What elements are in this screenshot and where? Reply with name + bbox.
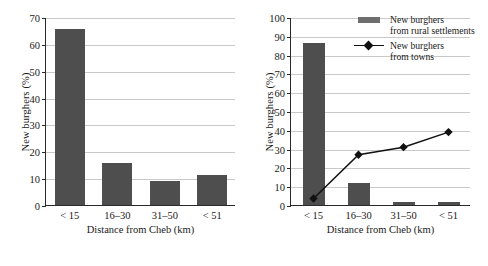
line-path bbox=[314, 132, 449, 198]
figure: New burghers (%) 010203040506070 < 1516–… bbox=[0, 0, 488, 266]
y-axis-tick-label: 10 bbox=[275, 182, 286, 193]
chart-panel-left: New burghers (%) 010203040506070 < 1516–… bbox=[0, 0, 244, 266]
y-axis-tick-label: 40 bbox=[275, 125, 286, 136]
x-axis-tick-label: < 51 bbox=[203, 210, 222, 221]
legend-item-rural: New burghers from rural settlements bbox=[354, 14, 475, 36]
y-axis-tick bbox=[42, 125, 46, 126]
legend-label-towns: New burghers from towns bbox=[390, 40, 444, 62]
y-axis-tick bbox=[42, 99, 46, 100]
y-axis-tick-label: 60 bbox=[30, 39, 41, 50]
y-axis-tick bbox=[42, 18, 46, 19]
plot-area-left: 010203040506070 < 1516–3031–50< 51 Dista… bbox=[45, 18, 235, 206]
bar bbox=[197, 175, 227, 205]
y-axis-tick-label: 20 bbox=[30, 147, 41, 158]
x-axis-tick-label: 16–30 bbox=[345, 210, 371, 221]
y-axis-tick-label: 60 bbox=[275, 88, 286, 99]
y-axis-tick-label: 20 bbox=[275, 163, 286, 174]
y-axis-tick bbox=[42, 152, 46, 153]
x-axis-tick-label: 31–50 bbox=[152, 210, 178, 221]
legend-item-towns: New burghers from towns bbox=[354, 40, 475, 62]
x-axis-tick-label: < 15 bbox=[60, 210, 79, 221]
y-axis-tick-label: 0 bbox=[35, 201, 40, 212]
y-axis-tick-label: 70 bbox=[275, 69, 286, 80]
y-axis-tick bbox=[42, 206, 46, 207]
legend-line-diamond-icon bbox=[354, 40, 384, 51]
y-axis-tick-label: 30 bbox=[275, 144, 286, 155]
y-axis-tick-label: 50 bbox=[275, 107, 286, 118]
y-axis-tick-label: 100 bbox=[269, 13, 285, 24]
y-axis-tick-label: 40 bbox=[30, 93, 41, 104]
bar bbox=[102, 163, 132, 205]
y-axis-tick-label: 90 bbox=[275, 31, 286, 42]
y-axis-title-left: New burghers (%) bbox=[20, 73, 31, 152]
legend-label-rural-line1: New burghers bbox=[390, 14, 475, 25]
y-axis-tick-label: 70 bbox=[30, 13, 41, 24]
legend-label-rural-line2: from rural settlements bbox=[390, 25, 475, 36]
legend-bar-swatch-icon bbox=[354, 14, 384, 25]
y-axis-tick-label: 30 bbox=[30, 120, 41, 131]
chart-panel-right: New burghers (%) 0102030405060708090100 … bbox=[244, 0, 488, 266]
y-axis-tick bbox=[42, 72, 46, 73]
y-axis-tick-label: 80 bbox=[275, 50, 286, 61]
bar bbox=[150, 181, 180, 205]
gridline bbox=[46, 18, 235, 19]
x-axis-tick-label: < 15 bbox=[304, 210, 323, 221]
legend: New burghers from rural settlements New … bbox=[354, 14, 475, 66]
y-axis-tick bbox=[42, 45, 46, 46]
data-point-marker-diamond bbox=[444, 128, 452, 136]
data-point-marker-diamond bbox=[399, 143, 407, 151]
x-axis-tick-label: 16–30 bbox=[104, 210, 130, 221]
x-axis-title-left: Distance from Cheb (km) bbox=[46, 224, 235, 235]
legend-label-towns-line2: from towns bbox=[390, 51, 444, 62]
legend-label-towns-line1: New burghers bbox=[390, 40, 444, 51]
bar bbox=[55, 29, 85, 205]
y-axis-tick-label: 10 bbox=[30, 174, 41, 185]
x-axis-tick-label: 31–50 bbox=[390, 210, 416, 221]
x-axis-title-right: Distance from Cheb (km) bbox=[291, 224, 470, 235]
y-axis-tick bbox=[287, 206, 291, 207]
y-axis-tick-label: 50 bbox=[30, 66, 41, 77]
y-axis-tick-label: 0 bbox=[280, 201, 285, 212]
x-axis-tick-label: < 51 bbox=[439, 210, 458, 221]
y-axis-title-right: New burghers (%) bbox=[264, 73, 275, 152]
y-axis-tick bbox=[42, 179, 46, 180]
legend-label-rural: New burghers from rural settlements bbox=[390, 14, 475, 36]
